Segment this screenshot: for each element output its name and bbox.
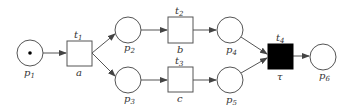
arc-t1-p2 <box>92 34 115 53</box>
arc-p5-t4 <box>241 58 267 73</box>
transition-action-tau: τ <box>277 71 283 82</box>
place-label-p2: p2 <box>124 42 135 55</box>
transition-t2: t2 b <box>168 5 193 55</box>
transition-label-t1: t1 <box>74 29 83 42</box>
token-dot <box>28 51 32 55</box>
place-label-p3: p3 <box>124 93 135 106</box>
place-label-p5: p5 <box>226 94 237 107</box>
transition-label-t2: t2 <box>175 5 184 18</box>
place-p3: p3 <box>115 67 141 106</box>
arc-t1-p3 <box>92 53 115 76</box>
transition-action-c: c <box>177 93 183 104</box>
petri-net-diagram: p1 p2 p3 p4 p5 p6 t1 a t2 b t3 c t4 τ <box>0 0 360 112</box>
place-p2: p2 <box>115 17 141 55</box>
place-label-p4: p4 <box>226 44 237 57</box>
transition-t1: t1 a <box>67 29 92 78</box>
transition-action-a: a <box>76 67 82 78</box>
transition-label-t4: t4 <box>276 32 285 45</box>
place-label-p6: p6 <box>319 70 330 83</box>
place-p5: p5 <box>217 67 243 107</box>
place-p6: p6 <box>310 44 336 83</box>
transition-t4-silent: t4 τ <box>268 32 293 82</box>
transition-t3: t3 c <box>168 55 193 104</box>
place-p1: p1 <box>17 40 43 80</box>
transition-action-b: b <box>177 44 183 55</box>
arc-p4-t4 <box>241 37 267 54</box>
place-label-p1: p1 <box>24 67 35 80</box>
transition-label-t3: t3 <box>175 55 184 68</box>
place-p4: p4 <box>217 17 243 57</box>
